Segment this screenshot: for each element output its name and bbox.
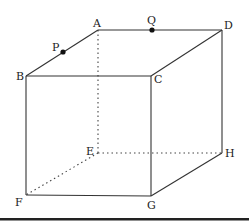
edge-GH (151, 153, 222, 196)
edge-FG (26, 195, 151, 196)
point-label-Q: Q (147, 14, 156, 27)
vertex-label-E: E (86, 145, 94, 158)
vertex-label-A: A (92, 17, 102, 30)
vertex-label-C: C (154, 73, 162, 86)
vertex-label-D: D (224, 19, 233, 32)
cube-diagram: A B C D E F G H P Q (0, 0, 249, 222)
point-label-P: P (52, 41, 60, 54)
point-Q-marker (149, 27, 154, 32)
vertex-label-F: F (15, 196, 23, 209)
vertex-label-H: H (225, 147, 235, 160)
edge-EF (26, 153, 98, 195)
edge-CD (151, 30, 222, 76)
point-P-marker (60, 49, 65, 54)
bottom-rule (0, 218, 249, 221)
vertex-label-G: G (147, 199, 156, 212)
vertex-label-B: B (16, 70, 24, 83)
